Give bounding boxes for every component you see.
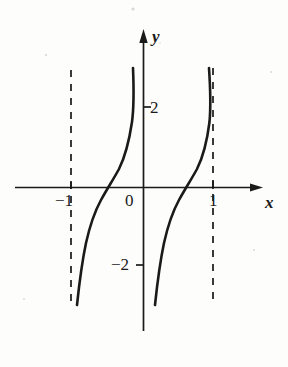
graph-figure xyxy=(0,0,288,367)
y-axis-label: y xyxy=(152,28,160,45)
origin-label: 0 xyxy=(125,192,134,209)
x-tick-label-1: 1 xyxy=(209,192,218,209)
y-tick-label-negative-2: −2 xyxy=(111,256,129,273)
x-tick-label-negative-1: −1 xyxy=(55,192,73,209)
y-tick-label-2: 2 xyxy=(150,99,159,116)
x-axis-label: x xyxy=(265,194,274,211)
